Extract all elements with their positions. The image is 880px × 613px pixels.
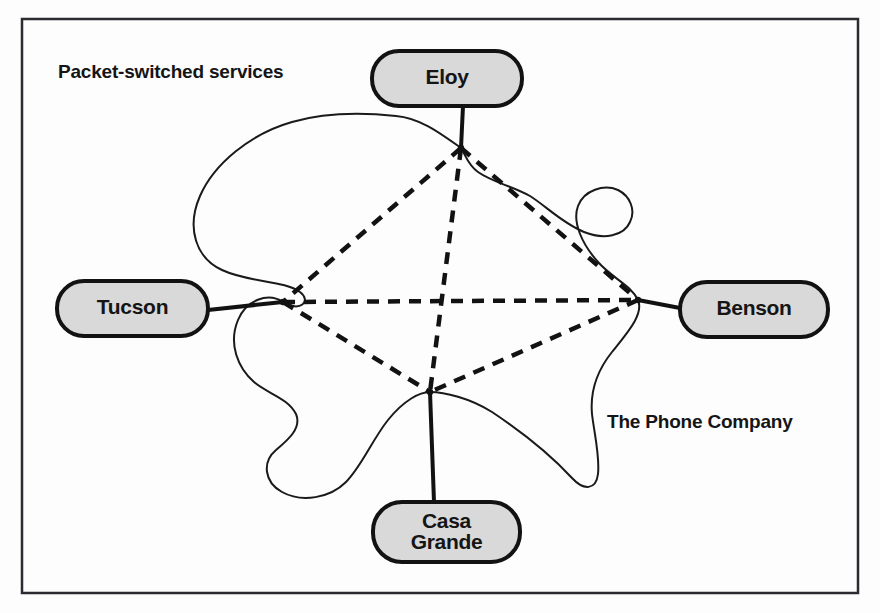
site-node-tucson[interactable]: Tucson bbox=[57, 281, 208, 336]
access-line-casa-grande bbox=[430, 392, 434, 502]
virtual-circuit-eloy-benson bbox=[461, 148, 638, 300]
virtual-circuit-links bbox=[283, 148, 638, 392]
hub-point-group bbox=[280, 145, 641, 395]
access-line-eloy bbox=[461, 106, 463, 148]
annotation-packet-switched-services: Packet-switched services bbox=[58, 61, 283, 82]
virtual-circuit-tucson-benson bbox=[283, 300, 638, 302]
site-node-group: EloyTucsonBensonCasaGrande bbox=[57, 51, 828, 562]
access-line-benson bbox=[638, 300, 680, 308]
site-node-label-eloy: Eloy bbox=[425, 65, 469, 88]
hub-point-tucson bbox=[280, 299, 286, 305]
virtual-circuit-tucson-casa-grande bbox=[283, 302, 430, 392]
site-node-label-benson: Benson bbox=[716, 296, 791, 319]
site-node-casa-grande[interactable]: CasaGrande bbox=[373, 502, 520, 562]
site-node-eloy[interactable]: Eloy bbox=[372, 51, 522, 106]
virtual-circuit-eloy-tucson bbox=[283, 148, 461, 302]
virtual-circuit-benson-casa-grande bbox=[430, 300, 638, 392]
annotation-the-phone-company: The Phone Company bbox=[607, 411, 793, 432]
virtual-circuit-eloy-casa-grande bbox=[430, 148, 461, 392]
diagram-canvas: EloyTucsonBensonCasaGrande Packet-switch… bbox=[0, 0, 880, 613]
site-node-benson[interactable]: Benson bbox=[680, 282, 828, 337]
site-node-label-tucson: Tucson bbox=[97, 295, 168, 318]
hub-point-eloy bbox=[458, 145, 464, 151]
annotation-group: Packet-switched servicesThe Phone Compan… bbox=[58, 61, 793, 432]
hub-point-benson bbox=[635, 297, 641, 303]
network-diagram: EloyTucsonBensonCasaGrande Packet-switch… bbox=[0, 0, 880, 613]
hub-point-casa-grande bbox=[427, 389, 433, 395]
